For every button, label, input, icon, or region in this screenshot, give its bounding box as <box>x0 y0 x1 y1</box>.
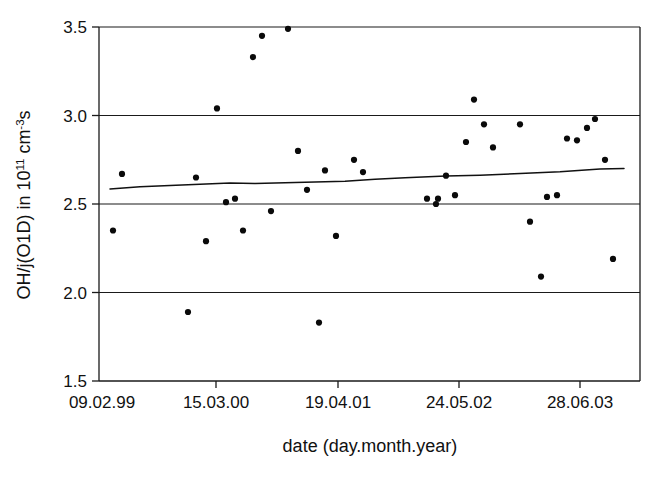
data-point <box>574 137 580 143</box>
data-point <box>424 196 430 202</box>
data-point <box>304 187 310 193</box>
data-point <box>232 196 238 202</box>
data-point <box>610 256 616 262</box>
data-point <box>250 54 256 60</box>
svg-text:OH/j(O1D) in 1011 cm-3s: OH/j(O1D) in 1011 cm-3s <box>14 110 34 299</box>
y-axis-title-prefix: OH/j(O1D) in 10 <box>14 171 34 300</box>
x-tick-label-1: 09.02.99 <box>69 393 135 412</box>
trend-line-group <box>110 169 624 189</box>
y-axis-title-mid: cm <box>14 130 34 159</box>
data-point <box>584 125 590 131</box>
data-point <box>544 194 550 200</box>
data-point <box>527 219 533 225</box>
y-tick-label-1-5: 1.5 <box>63 372 87 391</box>
gridlines-group <box>99 27 640 293</box>
data-point <box>538 274 544 280</box>
data-point <box>490 144 496 150</box>
data-point <box>193 174 199 180</box>
x-axis-title: date (day.month.year) <box>283 436 458 456</box>
x-tick-label-3: 19.04.01 <box>305 393 371 412</box>
data-point <box>463 139 469 145</box>
data-point <box>223 199 229 205</box>
y-axis-title-exponent-minus3: -3 <box>14 119 26 129</box>
data-point <box>433 201 439 207</box>
data-point <box>360 169 366 175</box>
tick-marks-group <box>92 27 580 388</box>
data-point <box>564 135 570 141</box>
y-axis-title-exponent-11: 11 <box>14 159 26 171</box>
data-point <box>185 309 191 315</box>
data-point <box>351 157 357 163</box>
data-point <box>517 121 523 127</box>
data-point <box>119 171 125 177</box>
x-tick-labels-group: 09.02.9915.03.0019.04.0124.05.0228.06.03 <box>69 393 613 412</box>
data-point <box>285 26 291 32</box>
y-tick-label-2-0: 2.0 <box>63 284 87 303</box>
data-point <box>592 116 598 122</box>
data-point <box>268 208 274 214</box>
data-point <box>481 121 487 127</box>
y-tick-label-2-5: 2.5 <box>63 195 87 214</box>
trend-line <box>110 169 624 189</box>
data-point <box>452 192 458 198</box>
x-tick-label-2: 15.03.00 <box>183 393 249 412</box>
data-point <box>471 97 477 103</box>
data-point <box>322 167 328 173</box>
y-axis-title-suffix: s <box>14 110 34 119</box>
data-point <box>214 105 220 111</box>
data-point <box>443 173 449 179</box>
y-tick-label-3-0: 3.0 <box>63 107 87 126</box>
data-point <box>316 320 322 326</box>
data-point <box>203 238 209 244</box>
chart-figure: 1.52.02.53.03.5 09.02.9915.03.0019.04.01… <box>0 0 664 482</box>
scatter-chart: 1.52.02.53.03.5 09.02.9915.03.0019.04.01… <box>0 0 664 482</box>
data-point <box>259 33 265 39</box>
x-tick-label-5: 28.06.03 <box>547 393 613 412</box>
y-tick-labels-group: 1.52.02.53.03.5 <box>63 18 87 391</box>
y-axis-title: OH/j(O1D) in 1011 cm-3s <box>14 110 34 299</box>
data-point <box>240 227 246 233</box>
data-point <box>333 233 339 239</box>
data-points-group <box>110 26 616 326</box>
data-point <box>602 157 608 163</box>
data-point <box>435 196 441 202</box>
y-tick-label-3-5: 3.5 <box>63 18 87 37</box>
x-tick-label-4: 24.05.02 <box>426 393 492 412</box>
data-point <box>110 227 116 233</box>
data-point <box>554 192 560 198</box>
data-point <box>295 148 301 154</box>
